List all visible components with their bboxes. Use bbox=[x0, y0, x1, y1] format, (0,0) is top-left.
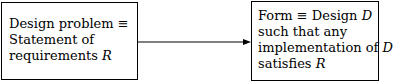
math-var-d: D bbox=[362, 8, 372, 23]
right-line-4-text: satisfies bbox=[258, 56, 316, 71]
right-line-2-text: such that any bbox=[258, 24, 347, 39]
form-design-text: Form ≡ Design D such that any implementa… bbox=[258, 8, 393, 72]
form-design-box: Form ≡ Design D such that any implementa… bbox=[251, 1, 379, 81]
right-line-1: Form ≡ Design D bbox=[258, 8, 393, 24]
right-line-3-text: implementation of bbox=[258, 40, 383, 55]
math-var-d: D bbox=[383, 40, 393, 55]
right-line-4: satisfies R bbox=[258, 56, 393, 72]
equiv-symbol: ≡ bbox=[297, 8, 308, 23]
arrowhead-icon bbox=[243, 39, 251, 45]
right-line-2: such that any bbox=[258, 24, 393, 40]
right-line-3: implementation of D bbox=[258, 40, 393, 56]
right-line-1-text: Form bbox=[258, 8, 297, 23]
math-var-r: R bbox=[316, 56, 326, 71]
right-line-1-text2: Design bbox=[308, 8, 362, 23]
